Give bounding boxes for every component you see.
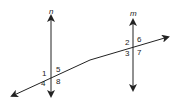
angle-7: 7 bbox=[137, 48, 142, 57]
diagram-canvas: n m 1 5 4 8 2 6 3 7 bbox=[0, 0, 179, 99]
angle-8: 8 bbox=[56, 77, 61, 86]
angle-6: 6 bbox=[137, 35, 142, 44]
parallel-lines-diagram: n m 1 5 4 8 2 6 3 7 bbox=[0, 0, 179, 99]
label-n: n bbox=[49, 7, 54, 16]
label-m: m bbox=[130, 9, 137, 18]
angle-4: 4 bbox=[41, 79, 46, 88]
angle-5: 5 bbox=[56, 65, 61, 74]
angle-2: 2 bbox=[125, 38, 130, 47]
angle-3: 3 bbox=[125, 49, 130, 58]
angle-1: 1 bbox=[42, 69, 47, 78]
